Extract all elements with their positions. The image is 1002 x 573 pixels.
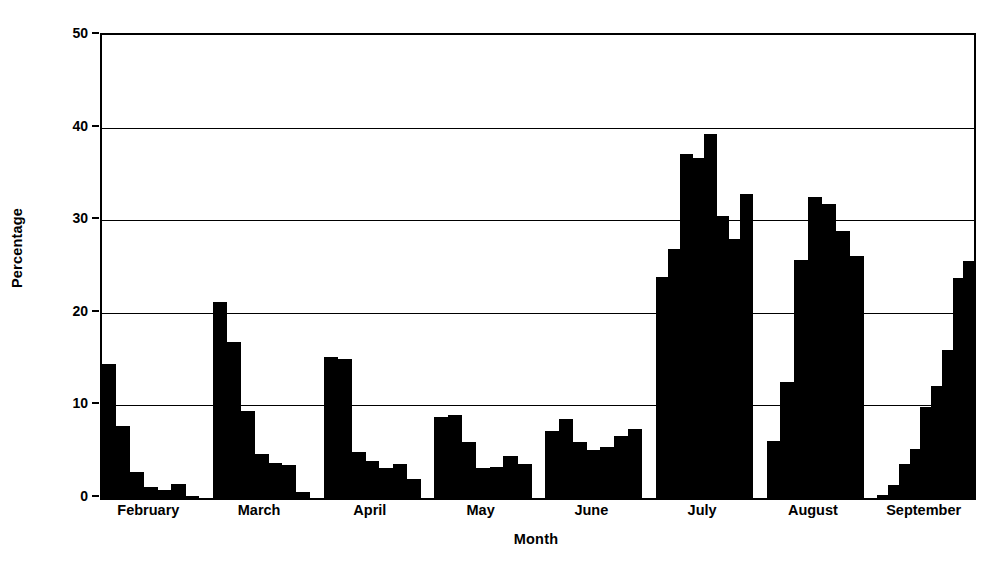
bar xyxy=(822,204,836,498)
bar xyxy=(877,495,888,498)
bar xyxy=(296,492,310,498)
bar xyxy=(240,411,254,498)
bar xyxy=(704,134,717,498)
gridline-30 xyxy=(102,220,974,221)
y-tick-label-0: 0 xyxy=(48,488,88,504)
x-tick-label-july: July xyxy=(688,502,717,518)
x-tick-label-june: June xyxy=(574,502,608,518)
x-axis-title: Month xyxy=(100,531,972,547)
bar xyxy=(185,496,199,498)
bar xyxy=(794,260,808,498)
bar xyxy=(614,436,628,498)
y-tick-label-20: 20 xyxy=(48,303,88,319)
bar xyxy=(963,261,974,498)
bar xyxy=(268,463,282,498)
bar xyxy=(406,479,420,498)
x-tick-label-march: March xyxy=(238,502,281,518)
x-tick-label-august: August xyxy=(788,502,838,518)
bar xyxy=(849,256,863,498)
y-tick-mark-10 xyxy=(92,402,99,404)
y-axis-title-text: Percentage xyxy=(9,208,25,288)
y-tick-mark-0 xyxy=(92,495,99,497)
bar xyxy=(628,429,642,498)
bar xyxy=(448,415,462,498)
bar xyxy=(282,465,296,498)
bar xyxy=(476,468,490,498)
bar xyxy=(517,464,531,498)
bar xyxy=(171,484,185,498)
bar xyxy=(780,382,794,498)
bar xyxy=(102,364,116,498)
y-tick-mark-20 xyxy=(92,310,99,312)
y-tick-label-30: 30 xyxy=(48,210,88,226)
bar xyxy=(379,468,393,498)
bar xyxy=(656,277,669,498)
bar xyxy=(434,417,448,498)
bar-chart-figure: Percentage Month 01020304050FebruaryMarc… xyxy=(0,0,1002,573)
x-tick-label-february: February xyxy=(117,502,179,518)
bar xyxy=(808,197,822,498)
bar xyxy=(573,442,587,498)
bar xyxy=(324,357,338,498)
bar xyxy=(728,239,741,498)
bar xyxy=(490,467,504,498)
bar xyxy=(351,452,365,498)
y-tick-mark-30 xyxy=(92,217,99,219)
gridline-40 xyxy=(102,128,974,129)
bar xyxy=(692,158,705,498)
x-tick-label-april: April xyxy=(353,502,386,518)
bar xyxy=(559,419,573,498)
bar xyxy=(767,441,781,498)
x-tick-label-september: September xyxy=(886,502,961,518)
y-tick-mark-40 xyxy=(92,125,99,127)
bar xyxy=(942,350,953,498)
bar xyxy=(888,485,899,498)
bar xyxy=(337,359,351,498)
bar xyxy=(899,464,910,498)
bar xyxy=(130,472,144,498)
bar xyxy=(503,456,517,498)
y-tick-label-50: 50 xyxy=(48,25,88,41)
y-tick-label-40: 40 xyxy=(48,118,88,134)
bar xyxy=(920,407,931,498)
y-tick-label-10: 10 xyxy=(48,395,88,411)
bar xyxy=(254,454,268,498)
bar xyxy=(545,431,559,498)
bar xyxy=(931,386,942,498)
plot-inner xyxy=(102,35,974,498)
bar xyxy=(600,447,614,498)
bar xyxy=(586,450,600,498)
bar xyxy=(213,302,227,498)
bar xyxy=(668,249,681,498)
bar xyxy=(393,464,407,498)
plot-area xyxy=(100,33,976,500)
x-tick-label-may: May xyxy=(467,502,495,518)
bar xyxy=(836,231,850,498)
bar xyxy=(157,490,171,498)
y-tick-mark-50 xyxy=(92,32,99,34)
bar xyxy=(143,487,157,498)
bar xyxy=(365,461,379,498)
bar xyxy=(716,216,729,498)
bar xyxy=(227,342,241,498)
bar xyxy=(462,442,476,498)
y-axis-title: Percentage xyxy=(0,0,34,496)
bar xyxy=(116,426,130,498)
bar xyxy=(910,449,921,498)
bar xyxy=(740,194,753,498)
bar xyxy=(680,154,693,498)
bar xyxy=(953,278,964,498)
